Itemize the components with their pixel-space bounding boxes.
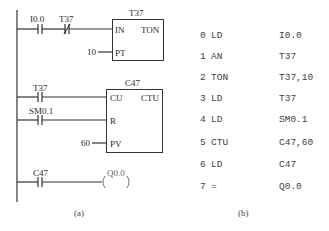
block-type-ctu: CTU — [141, 93, 159, 103]
opcode: CTU — [211, 137, 228, 148]
operand: C47,60 — [279, 137, 313, 148]
operand: T37 — [279, 93, 296, 104]
opcode: LD — [211, 159, 222, 170]
step-number: 5 — [200, 137, 206, 148]
pin-r: R — [110, 116, 116, 126]
operand: SM0.1 — [279, 114, 308, 125]
timer-name: T37 — [129, 8, 144, 18]
pin-pt: PT — [115, 48, 126, 58]
ton-timer-block: IN TON PT — [112, 19, 164, 61]
step-number: 1 — [200, 51, 206, 62]
ctu-counter-block: CU CTU R PV — [106, 89, 163, 153]
counter-name: C47 — [125, 78, 140, 88]
opcode: LD — [211, 114, 222, 125]
step-number: 0 — [200, 30, 206, 41]
coil-label-q0-0: Q0.0 — [107, 168, 125, 178]
operand: C47 — [279, 159, 296, 170]
opcode: = — [211, 181, 217, 192]
contact-label-t37: T37 — [33, 83, 48, 93]
opcode: TON — [211, 72, 228, 83]
contact-label-t37-nc: T37 — [59, 14, 74, 24]
pv-value: 60 — [81, 138, 90, 148]
operand: Q0.0 — [279, 181, 302, 192]
step-number: 2 — [200, 72, 206, 83]
opcode: AN — [211, 51, 222, 62]
step-number: 3 — [200, 93, 206, 104]
pin-pv: PV — [110, 139, 122, 149]
step-number: 4 — [200, 114, 206, 125]
pin-cu: CU — [110, 93, 123, 103]
contact-label-sm0-1: SM0.1 — [29, 106, 53, 116]
opcode: LD — [211, 93, 222, 104]
caption-b: (b) — [238, 208, 249, 218]
operand: T37 — [279, 51, 296, 62]
pt-value: 10 — [87, 47, 96, 57]
pin-in: IN — [115, 25, 125, 35]
contact-label-c47: C47 — [33, 168, 48, 178]
block-type-ton: TON — [141, 25, 159, 35]
operand: T37,10 — [279, 72, 313, 83]
caption-a: (a) — [74, 208, 84, 218]
step-number: 6 — [200, 159, 206, 170]
step-number: 7 — [200, 181, 206, 192]
opcode: LD — [211, 30, 222, 41]
contact-label-i0-0: I0.0 — [30, 14, 44, 24]
operand: I0.0 — [279, 30, 302, 41]
